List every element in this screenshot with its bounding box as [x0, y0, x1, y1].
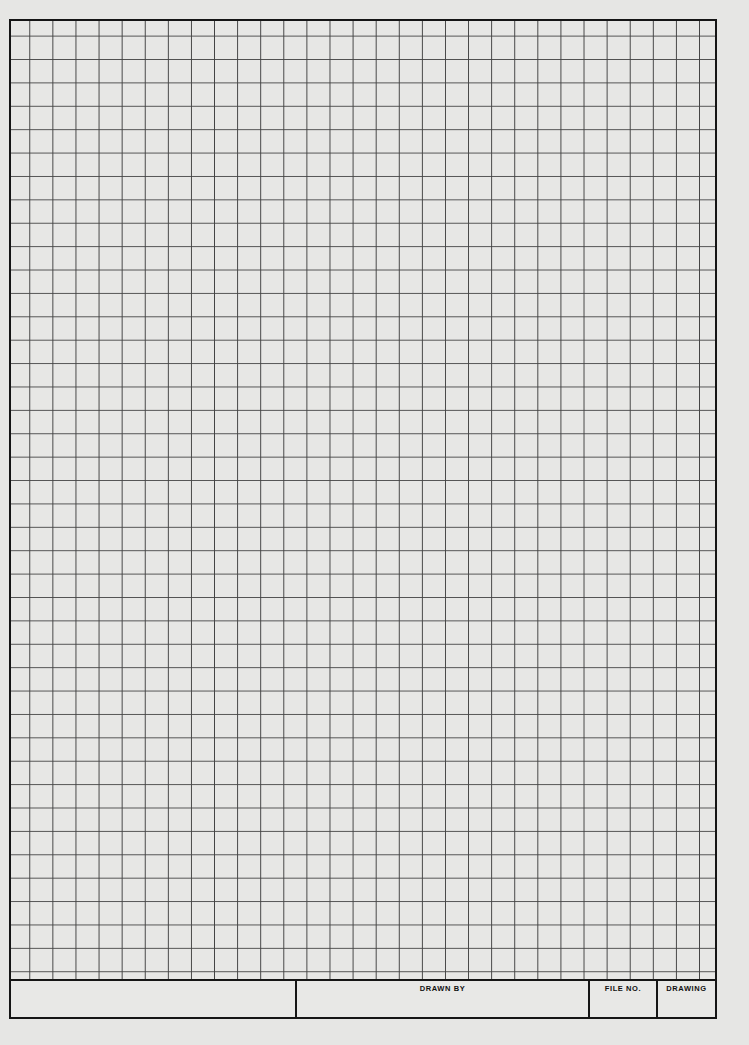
drawing-label: DRAWING: [658, 984, 715, 993]
graph-grid: [11, 21, 715, 980]
file-no-label: FILE NO.: [590, 984, 656, 993]
file-no-field[interactable]: FILE NO.: [590, 981, 658, 1017]
title-block-blank-field[interactable]: [11, 981, 297, 1017]
drawn-by-label: DRAWN BY: [297, 984, 588, 993]
drawing-field[interactable]: DRAWING: [658, 981, 715, 1017]
drawn-by-field[interactable]: DRAWN BY: [297, 981, 590, 1017]
title-block: DRAWN BY FILE NO. DRAWING: [11, 979, 715, 1017]
